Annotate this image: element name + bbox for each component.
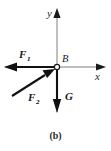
vector-f2-arrowhead bbox=[43, 69, 56, 78]
force-diagram: y x F 1 F 2 G B bbox=[0, 0, 111, 151]
vector-g-label: G bbox=[65, 90, 73, 102]
x-axis-label: x bbox=[94, 70, 100, 82]
vector-f1-arrowhead bbox=[4, 62, 17, 71]
vector-g-arrowhead bbox=[53, 99, 61, 113]
vector-f1-label: F bbox=[18, 48, 27, 60]
point-b-marker bbox=[54, 64, 59, 69]
y-axis-label: y bbox=[46, 7, 52, 19]
vector-f1-label-group: F 1 bbox=[18, 48, 31, 63]
y-axis-arrowhead bbox=[53, 8, 60, 18]
vector-f2-label-group: F 2 bbox=[27, 91, 40, 106]
point-b-label: B bbox=[62, 53, 69, 64]
force-diagram-svg: y x F 1 F 2 G B bbox=[0, 0, 111, 151]
vector-f2-label: F bbox=[27, 91, 36, 103]
vector-f1-subscript: 1 bbox=[27, 55, 31, 63]
vector-f2-subscript: 2 bbox=[35, 98, 40, 106]
figure-caption: (b) bbox=[0, 130, 111, 141]
